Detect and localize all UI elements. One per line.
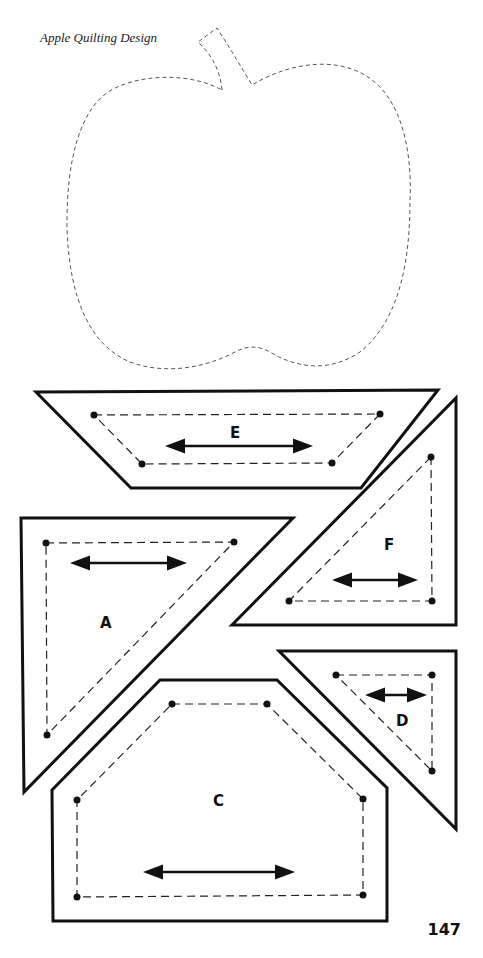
template-piece-f: F (232, 398, 456, 625)
piece-label-f: F (384, 536, 394, 554)
template-piece-d: D (279, 651, 456, 829)
quilt-pattern-drawing: E F A D C (0, 0, 483, 958)
piece-label-a: A (100, 614, 112, 632)
template-piece-c: C (52, 680, 387, 921)
piece-label-c: C (213, 792, 224, 810)
page-number: 147 (428, 920, 461, 939)
apple-outline (67, 28, 410, 369)
piece-label-d: D (396, 712, 408, 730)
piece-label-e: E (230, 424, 240, 442)
template-piece-a: A (21, 518, 293, 792)
template-piece-e: E (36, 390, 438, 488)
